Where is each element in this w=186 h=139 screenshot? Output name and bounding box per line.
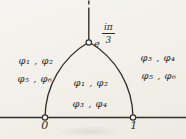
apex-point-label: e iπ 3	[94, 22, 115, 49]
region-label-inside-line2: φ₃ , φ₄	[65, 98, 115, 109]
apex-label-exponent-numerator: iπ	[102, 22, 115, 34]
scan-smudge	[58, 127, 122, 136]
region-label-left-line2: φ₅ , φ₆	[11, 73, 59, 84]
axis-label-zero: 0	[37, 120, 53, 131]
region-label-right-line1: φ₃ , φ₄	[133, 52, 183, 63]
region-label-inside-line1: φ₁ , φ₂	[66, 77, 116, 88]
apex-label-base: e	[94, 38, 100, 49]
apex-label-exponent-denominator: 3	[105, 34, 111, 45]
apex-label-exponent-fraction: iπ 3	[102, 22, 115, 45]
math-figure-triangle-diagram: φ₁ , φ₂ φ₅ , φ₆ φ₃ , φ₄ φ₅ , φ₆ φ₁ , φ₂ …	[0, 0, 186, 139]
region-label-left-line1: φ₁ , φ₂	[12, 55, 60, 66]
apex-circle	[86, 40, 91, 45]
axis-label-one: 1	[126, 120, 142, 131]
region-label-right-line2: φ₅ , φ₆	[134, 70, 184, 81]
